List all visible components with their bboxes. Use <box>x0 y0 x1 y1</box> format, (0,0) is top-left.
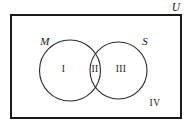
venn-diagram-figure: U M S I II III IV <box>0 0 192 126</box>
region-label-i: I <box>62 65 66 75</box>
venn-diagram-canvas <box>0 0 192 126</box>
region-label-iii: III <box>116 65 127 75</box>
set-label-s: S <box>142 36 148 47</box>
region-label-ii: II <box>91 65 98 75</box>
set-label-m: M <box>40 36 49 47</box>
region-label-iv: IV <box>150 99 161 109</box>
universal-set-label: U <box>172 2 181 14</box>
